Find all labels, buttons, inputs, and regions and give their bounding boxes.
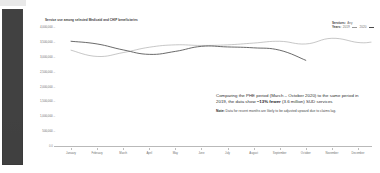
y-axis-tick-label: 3,000,000– (40, 55, 55, 59)
x-axis-tick-mark (306, 148, 307, 150)
x-axis-line (54, 146, 372, 147)
y-axis-tick-label: 500,000– (42, 129, 55, 133)
x-axis-tick-mark (332, 148, 333, 150)
x-axis-tick-mark (149, 148, 150, 150)
series-line-2019 (71, 38, 371, 56)
y-axis-tick-label: 1,000,000– (40, 114, 55, 118)
x-axis-tick-label: April (146, 151, 152, 155)
plot-area (58, 27, 371, 146)
x-axis-tick-mark (97, 148, 98, 150)
chart-panel: Service use among selected Medicaid and … (23, 9, 380, 165)
annotation-note: Note: Data for recent months are likely … (216, 109, 366, 114)
y-axis: 4,000,000–3,500,000–3,000,000–2,500,000–… (23, 27, 58, 146)
y-axis-tick-label: 2,000,000– (40, 85, 55, 89)
x-axis-tick-label: January (66, 151, 76, 155)
window-chrome-strip (0, 0, 26, 6)
x-axis-tick-label: August (249, 151, 258, 155)
annotation-text-part-2: (3.6 million) SUD services (281, 99, 333, 104)
y-axis-tick-label: 1,500,000– (40, 99, 55, 103)
x-axis-tick-mark (201, 148, 202, 150)
x-axis-tick-mark (280, 148, 281, 150)
x-axis-tick-label: March (119, 151, 127, 155)
y-axis-tick-label: 3,500,000– (40, 40, 55, 44)
x-axis-labels: JanuaryFebruaryMarchAprilMayJuneJulyAugu… (58, 148, 371, 160)
x-axis-tick-label: February (92, 151, 103, 155)
annotation-note-text: Data for recent months are likely to be … (225, 109, 336, 113)
x-axis-tick-mark (228, 148, 229, 150)
x-axis-tick-label: September (273, 151, 287, 155)
y-axis-tick-label: 2,500,000– (40, 70, 55, 74)
x-axis-tick-label: December (352, 151, 365, 155)
x-axis-tick-mark (254, 148, 255, 150)
x-axis-tick-mark (71, 148, 72, 150)
chart-title: Service use among selected Medicaid and … (45, 18, 138, 22)
annotation-block: Comparing the PHE period (March – Octobe… (216, 93, 366, 114)
x-axis-tick-label: October (301, 151, 311, 155)
x-axis-tick-label: June (198, 151, 204, 155)
navigation-rail[interactable] (2, 9, 23, 165)
axis-origin-label: 0.0 (49, 144, 53, 148)
navigation-rail-surface (3, 10, 22, 164)
x-axis-tick-mark (175, 148, 176, 150)
y-axis-tick-label: 4,000,000– (40, 25, 55, 29)
x-axis-tick-label: May (173, 151, 178, 155)
x-axis-tick-mark (358, 148, 359, 150)
series-line-2020 (71, 41, 306, 60)
x-axis-tick-label: November (325, 151, 338, 155)
x-axis-tick-mark (123, 148, 124, 150)
x-axis-tick-label: July (225, 151, 230, 155)
line-chart-svg (58, 27, 371, 146)
annotation-note-label: Note: (216, 109, 225, 113)
annotation-emphasis: ~13% fewer (257, 99, 281, 104)
dashboard-root: Service use among selected Medicaid and … (0, 0, 380, 173)
annotation-main-text: Comparing the PHE period (March – Octobe… (216, 93, 366, 105)
